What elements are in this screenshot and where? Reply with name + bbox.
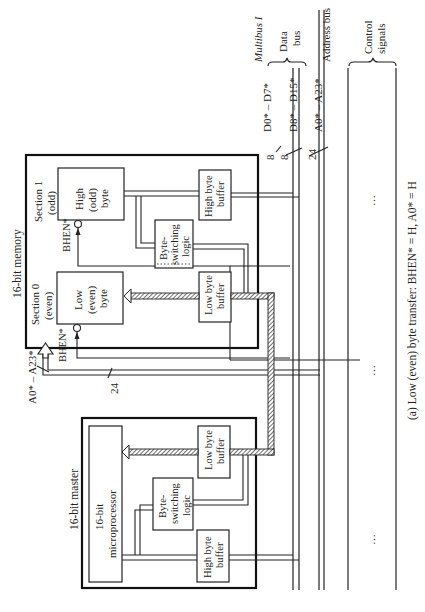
mst-hbuf-line1: High byte xyxy=(202,536,213,578)
width-address: 24 xyxy=(306,149,318,161)
section0-label-1: Section 0 xyxy=(29,283,41,325)
address-line-b xyxy=(48,353,320,370)
mem-lbuf-line2: buffer xyxy=(215,283,226,309)
mem-switch-line2: switching xyxy=(169,223,180,265)
mem-switch-line3: logic xyxy=(180,236,191,257)
high-byte-line1: High xyxy=(73,188,85,211)
mst-switch-line2: switching xyxy=(169,482,180,524)
address-line-a xyxy=(43,350,320,375)
control-label-2: signals xyxy=(375,23,387,54)
memory-address-label: A0* – A23* xyxy=(26,350,38,404)
low-byte-line3: byte xyxy=(97,289,109,308)
low-byte-line1: Low xyxy=(72,290,84,310)
width-d8-d15: 8 xyxy=(278,154,290,160)
label-a0-a23: A0* – A23* xyxy=(312,78,324,132)
memory-address-width: 24 xyxy=(108,383,120,395)
byte-transfer-diagram: 8 8 24 D0* – D7* D8* – D15* A0* – A23* M… xyxy=(0,0,425,612)
label-d0-d7: D0* – D7* xyxy=(261,83,273,132)
section1-label-2: (odd) xyxy=(45,191,58,215)
multibus-lines xyxy=(293,10,396,590)
section1-label-1: Section 1 xyxy=(32,181,44,222)
master-title: 16-bit master xyxy=(68,469,80,530)
bhen-label-high: BHEN* xyxy=(61,218,72,252)
control-ellipsis-mid: … xyxy=(365,365,377,376)
control-ellipsis-top: … xyxy=(365,195,377,206)
data-bus-label-1: Data xyxy=(277,31,289,52)
cpu-line1: 16-bit xyxy=(93,504,105,530)
data-bus-brace xyxy=(268,58,306,66)
label-d8-d15: D8* – D15* xyxy=(287,78,299,132)
bhen-bubble-high xyxy=(75,221,82,228)
cpu-line2: microprocessor xyxy=(106,490,118,558)
mem-lbuf-line1: Low byte xyxy=(203,275,214,315)
address-bus-label: Address bus xyxy=(320,8,332,62)
bhen-label-low: BHEN* xyxy=(57,328,68,362)
figure-caption: (a) Low (even) byte transfer: BHEN* = H,… xyxy=(406,181,419,420)
address-arrow xyxy=(38,343,53,358)
bus-width-marks xyxy=(276,146,328,156)
control-ellipsis-bot: … xyxy=(365,534,377,545)
mem-switch-line1: Byte- xyxy=(158,236,169,260)
mst-lbuf-line1: Low byte xyxy=(203,430,214,470)
memory-title: 16-bit memory xyxy=(11,229,24,298)
control-label-1: Control xyxy=(362,20,374,54)
multibus-name: Multibus I xyxy=(252,15,264,63)
mst-switch-line3: logic xyxy=(181,495,192,516)
control-brace xyxy=(349,58,396,66)
mst-hbuf-line2: buffer xyxy=(214,542,225,568)
high-byte-line3: byte xyxy=(98,189,110,208)
mst-switch-line1: Byte- xyxy=(157,494,168,518)
width-d0-d7: 8 xyxy=(264,154,276,160)
mem-hbuf-line1: High byte xyxy=(203,175,214,217)
mem-hbuf-line2: buffer xyxy=(215,181,226,207)
mst-lbuf-line2: buffer xyxy=(215,438,226,464)
section0-label-2: (even) xyxy=(42,292,55,320)
bhen-bubble-low xyxy=(74,325,81,332)
data-bus-label-2: bus xyxy=(290,31,302,46)
